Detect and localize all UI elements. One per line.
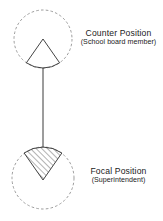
node-focal-position: [12, 147, 74, 209]
focal-position-subtitle: (Superintendent): [74, 177, 163, 184]
counter-position-title: Counter Position: [74, 29, 163, 38]
counter-position-label: Counter Position (School board member): [74, 29, 163, 46]
focal-position-title: Focal Position: [74, 167, 163, 176]
counter-position-wedge: [26, 39, 59, 68]
focal-position-hatched-wedge: [24, 147, 62, 180]
counter-position-subtitle: (School board member): [74, 39, 163, 46]
focal-position-label: Focal Position (Superintendent): [74, 167, 163, 184]
node-counter-position: [14, 10, 72, 68]
